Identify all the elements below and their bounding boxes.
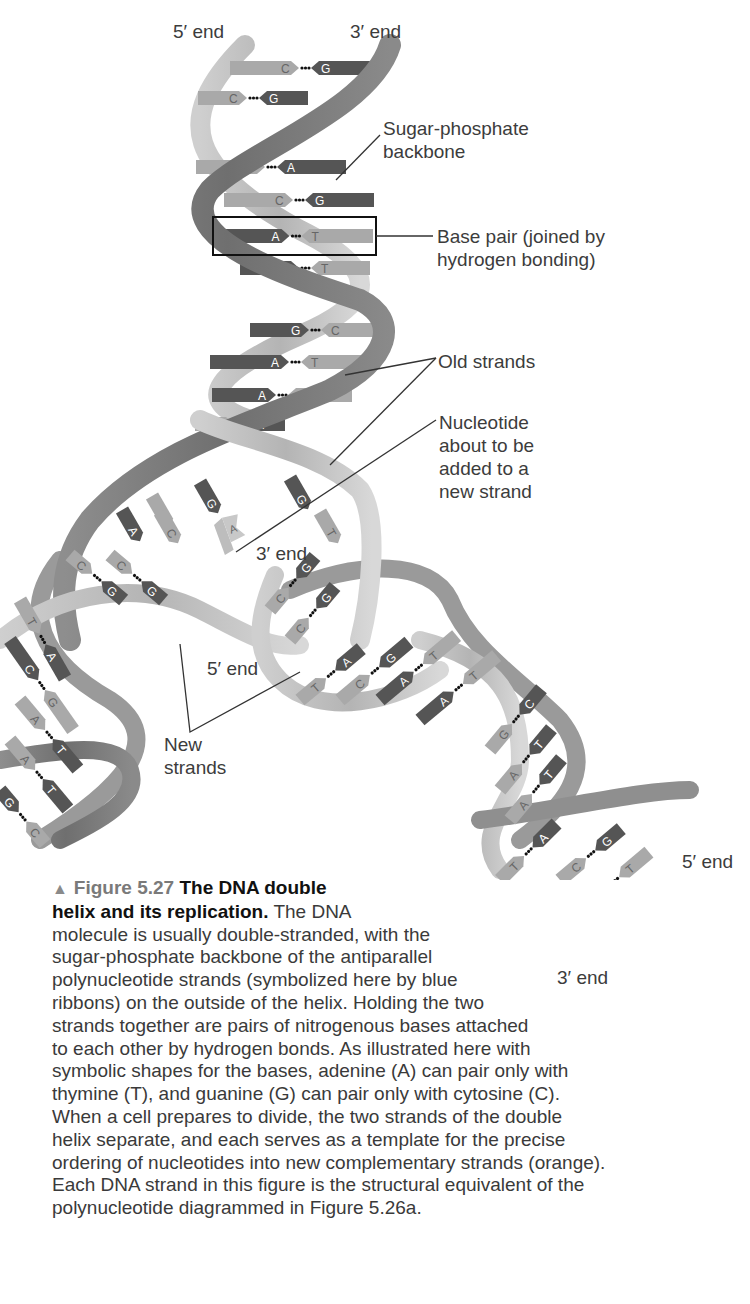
base-pair: CG <box>556 823 627 880</box>
figure-title-line1: The DNA double <box>179 877 326 898</box>
label-right-5-end: 5′ end <box>682 850 733 873</box>
caption-line: polynucleotide strands (symbolized here … <box>52 969 732 992</box>
svg-text:G: G <box>291 324 300 338</box>
label-top-3-end: 3′ end <box>350 20 401 43</box>
caption-line: to each other by hydrogen bonds. As illu… <box>52 1038 732 1061</box>
caption-line: sugar-phosphate backbone of the antipara… <box>52 946 732 969</box>
caption-line: ordering of nucleotides into new complem… <box>52 1152 732 1175</box>
free-nucleotide: A <box>213 512 250 555</box>
label-mid-3-end: 3′ end <box>256 542 307 565</box>
label-nucleotide: Nucleotide about to be added to a new st… <box>439 411 534 503</box>
label-base-pair: Base pair (joined by hydrogen bonding) <box>437 225 605 271</box>
caption-line: Each DNA strand in this figure is the st… <box>52 1174 732 1197</box>
svg-text:A: A <box>271 356 279 370</box>
unpaired-base: A <box>115 507 146 546</box>
base-pair: CG <box>198 91 308 106</box>
unpaired-base: G <box>283 475 314 514</box>
svg-text:A: A <box>258 389 266 403</box>
svg-text:C: C <box>229 92 238 106</box>
caption-line: helix separate, and each serves as a tem… <box>52 1129 732 1152</box>
svg-text:T: T <box>321 262 329 276</box>
label-sugar-phosphate: Sugar-phosphate backbone <box>383 117 529 163</box>
triangle-marker-icon: ▲ <box>52 880 68 897</box>
svg-text:A: A <box>287 161 295 175</box>
svg-text:G: G <box>315 194 324 208</box>
svg-text:C: C <box>281 62 290 76</box>
caption-line: symbolic shapes for the bases, adenine (… <box>52 1060 732 1083</box>
caption-line: molecule is usually double-stranded, wit… <box>52 924 732 947</box>
base-pair: CG <box>224 193 374 208</box>
caption-line: polynucleotide diagrammed in Figure 5.26… <box>52 1197 732 1220</box>
dna-figure: CGCGTACGATATGCATATTA GCACGT CGCGTACGATAT… <box>0 0 750 880</box>
svg-text:G: G <box>321 62 330 76</box>
figure-title-line2: helix and its replication. <box>52 901 268 922</box>
label-top-5-end: 5′ end <box>173 20 224 43</box>
svg-text:G: G <box>269 92 278 106</box>
dna-helix-illustration: CGCGTACGATATGCATATTA GCACGT CGCGTACGATAT… <box>0 0 750 880</box>
svg-text:T: T <box>312 230 320 244</box>
svg-text:C: C <box>331 324 340 338</box>
caption-line: thymine (T), and guanine (G) can pair on… <box>52 1083 732 1106</box>
svg-text:C: C <box>275 194 284 208</box>
figure-number: Figure 5.27 <box>74 877 174 898</box>
unpaired-base: T <box>313 509 344 548</box>
label-old-strands: Old strands <box>438 350 535 373</box>
unpaired-base: C <box>153 509 184 548</box>
caption-body-first: The DNA <box>268 901 351 922</box>
figure-caption: ▲Figure 5.27 The DNA double helix and it… <box>52 877 732 1220</box>
base-pair: CG <box>230 61 380 76</box>
label-new-strands: New strands <box>164 733 226 779</box>
unpaired-base: G <box>193 479 224 518</box>
svg-text:A: A <box>272 230 280 244</box>
svg-text:T: T <box>311 356 319 370</box>
caption-line: ribbons) on the outside of the helix. Ho… <box>52 992 732 1015</box>
base-pair: GC <box>0 786 50 849</box>
base-pair: AT <box>576 847 655 880</box>
caption-line: When a cell prepares to divide, the two … <box>52 1106 732 1129</box>
caption-line: strands together are pairs of nitrogenou… <box>52 1015 732 1038</box>
label-mid-5-end: 5′ end <box>207 657 258 680</box>
